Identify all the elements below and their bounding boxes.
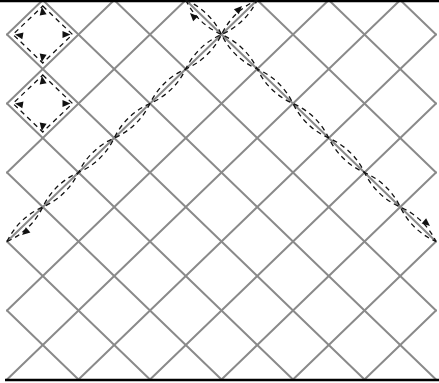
dashed-paths	[7, 0, 436, 242]
arrow-northwest-icon	[190, 13, 198, 21]
grid-line-falling	[400, 0, 436, 35]
grid-line-rising	[7, 0, 400, 380]
lattice-grid	[7, 0, 436, 380]
grid-line-falling	[114, 0, 436, 311]
grid-line-falling	[257, 0, 436, 173]
grid-line-falling	[186, 0, 436, 242]
lower-loop	[13, 75, 73, 132]
grid-line-rising	[7, 0, 257, 242]
grid-line-falling	[43, 0, 436, 380]
grid-line-rising	[7, 0, 114, 104]
grid-line-falling	[329, 0, 436, 104]
grid-line-rising	[7, 0, 186, 173]
grid-line-rising	[7, 0, 329, 311]
arrow-southeast-icon	[422, 218, 430, 226]
grid-line-rising	[7, 0, 43, 35]
upper-loop	[13, 6, 73, 63]
lattice-diagram	[0, 0, 439, 383]
